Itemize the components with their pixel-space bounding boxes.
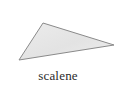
scalene-triangle-figure: scalene xyxy=(0,0,116,92)
scalene-triangle-shape xyxy=(19,23,114,60)
triangle-svg xyxy=(0,0,116,70)
shape-canvas xyxy=(0,0,116,70)
shape-caption-label: scalene xyxy=(0,68,116,83)
